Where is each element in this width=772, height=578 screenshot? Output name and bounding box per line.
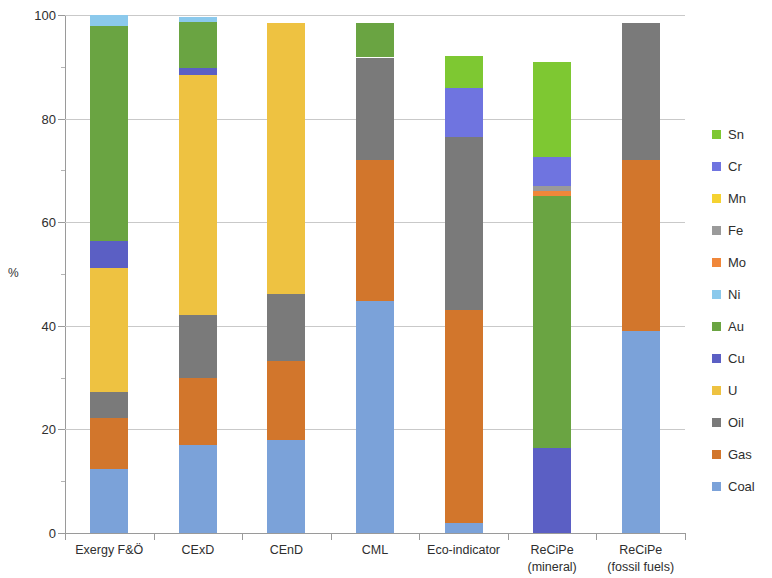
legend-swatch-icon [712, 162, 721, 171]
x-axis-tick-mark [154, 534, 155, 540]
x-axis-line [65, 533, 686, 534]
y-axis-tick-mark [58, 15, 65, 16]
legend-swatch-icon [712, 130, 721, 139]
legend-item-label: Fe [728, 223, 743, 238]
bar-segment-gas[interactable] [90, 418, 128, 469]
bar-segment-ni[interactable] [90, 15, 128, 26]
bar-segment-cr[interactable] [445, 88, 483, 137]
bar-segment-au[interactable] [356, 23, 394, 58]
bar-segment-u[interactable] [90, 268, 128, 392]
legend-item-label: Cu [728, 351, 745, 366]
bar-segment-gas[interactable] [356, 160, 394, 301]
x-axis-tick-label: CML [331, 542, 420, 559]
legend-item-u[interactable]: U [712, 374, 772, 406]
legend-item-sn[interactable]: Sn [712, 118, 772, 150]
bar-segment-oil[interactable] [267, 294, 305, 361]
x-axis-tick-mark [596, 534, 597, 540]
bar-segment-coal[interactable] [90, 469, 128, 533]
bar-segment-u[interactable] [267, 23, 305, 294]
x-axis-tick-mark [685, 534, 686, 540]
bar-column[interactable] [533, 15, 571, 533]
bar-segment-coal[interactable] [622, 331, 660, 533]
y-axis-minor-tick [61, 67, 65, 68]
legend-item-label: Cr [728, 159, 742, 174]
legend-item-ni[interactable]: Ni [712, 278, 772, 310]
x-axis-tick-mark [65, 534, 66, 540]
bar-segment-oil[interactable] [179, 315, 217, 377]
bar-segment-coal[interactable] [356, 301, 394, 533]
bar-segment-gas[interactable] [179, 378, 217, 445]
bar-segment-cr[interactable] [533, 157, 571, 185]
legend-item-label: U [728, 383, 737, 398]
bar-segment-mo[interactable] [533, 191, 571, 196]
bar-column[interactable] [445, 15, 483, 533]
bar-column[interactable] [267, 15, 305, 533]
y-axis-tick-labels: 020406080100 [18, 0, 56, 578]
bar-segment-sn[interactable] [445, 56, 483, 87]
y-axis-tick-label: 20 [20, 422, 56, 437]
y-axis-tick-label: 60 [20, 215, 56, 230]
bar-segment-cu[interactable] [533, 448, 571, 533]
legend-swatch-icon [712, 258, 721, 267]
y-axis-tick-label: 80 [20, 111, 56, 126]
bar-segment-cu[interactable] [179, 68, 217, 74]
bar-segment-au[interactable] [179, 22, 217, 69]
bar-segment-coal[interactable] [179, 445, 217, 533]
legend-swatch-icon [712, 226, 721, 235]
bar-segment-sn[interactable] [533, 62, 571, 158]
legend-item-au[interactable]: Au [712, 310, 772, 342]
legend-item-gas[interactable]: Gas [712, 438, 772, 470]
bar-column[interactable] [179, 15, 217, 533]
bar-segment-au[interactable] [90, 26, 128, 241]
bar-column[interactable] [90, 15, 128, 533]
x-axis-tick-label: ReCiPe (fossil fuels) [596, 542, 685, 576]
bar-segment-au[interactable] [533, 196, 571, 447]
bar-segment-cu[interactable] [90, 241, 128, 267]
x-axis-tick-label: CEnD [242, 542, 331, 559]
legend-item-cr[interactable]: Cr [712, 150, 772, 182]
bar-segment-coal[interactable] [267, 440, 305, 533]
legend-item-label: Mn [728, 191, 746, 206]
bar-segment-oil[interactable] [622, 23, 660, 160]
legend-item-label: Oil [728, 415, 744, 430]
bar-column[interactable] [622, 15, 660, 533]
x-axis-tick-label: ReCiPe (mineral) [508, 542, 597, 576]
x-axis-tick-label: Eco-indicator [419, 542, 508, 559]
bar-segment-fe[interactable] [533, 186, 571, 191]
legend: SnCrMnFeMoNiAuCuUOilGasCoal [712, 118, 772, 502]
legend-swatch-icon [712, 290, 721, 299]
bar-segment-oil[interactable] [90, 392, 128, 418]
legend-item-cu[interactable]: Cu [712, 342, 772, 374]
legend-item-label: Coal [728, 479, 755, 494]
bar-column[interactable] [356, 15, 394, 533]
y-axis-minor-tick [61, 170, 65, 171]
y-axis-tick-label: 0 [20, 526, 56, 541]
legend-swatch-icon [712, 194, 721, 203]
legend-swatch-icon [712, 354, 721, 363]
bar-segment-gas[interactable] [267, 361, 305, 440]
bar-segment-oil[interactable] [445, 137, 483, 311]
bar-segment-ni[interactable] [179, 17, 217, 22]
legend-item-label: Au [728, 319, 744, 334]
bar-segment-u[interactable] [179, 75, 217, 316]
legend-item-mo[interactable]: Mo [712, 246, 772, 278]
bar-segment-oil[interactable] [356, 58, 394, 160]
legend-item-mn[interactable]: Mn [712, 182, 772, 214]
legend-item-label: Gas [728, 447, 752, 462]
legend-swatch-icon [712, 418, 721, 427]
y-axis-tick-mark [58, 222, 65, 223]
y-axis-minor-tick [61, 481, 65, 482]
legend-item-fe[interactable]: Fe [712, 214, 772, 246]
y-axis-tick-label: 40 [20, 318, 56, 333]
legend-item-coal[interactable]: Coal [712, 470, 772, 502]
x-axis-tick-mark [242, 534, 243, 540]
bar-segment-gas[interactable] [622, 160, 660, 331]
x-axis-tick-mark [508, 534, 509, 540]
x-axis-tick-mark [331, 534, 332, 540]
x-axis-tick-label: CExD [154, 542, 243, 559]
bar-segment-coal[interactable] [445, 523, 483, 533]
bar-segment-gas[interactable] [445, 310, 483, 522]
legend-swatch-icon [712, 386, 721, 395]
legend-item-label: Mo [728, 255, 746, 270]
legend-item-oil[interactable]: Oil [712, 406, 772, 438]
